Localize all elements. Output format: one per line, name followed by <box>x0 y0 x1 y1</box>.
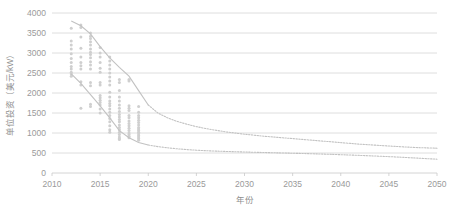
y-tick-label-4000: 4000 <box>27 8 46 18</box>
x-tick-label-2045: 2045 <box>379 179 398 189</box>
x-axis-line-group <box>52 173 437 176</box>
trend-curves-group <box>71 21 437 159</box>
scatter-point <box>89 44 92 47</box>
scatter-point <box>128 116 131 119</box>
x-tick-label-2030: 2030 <box>235 179 254 189</box>
scatter-point <box>79 68 82 71</box>
scatter-point <box>118 78 121 81</box>
scatter-point <box>70 52 73 55</box>
scatter-point <box>79 36 82 39</box>
scatter-point <box>89 56 92 59</box>
scatter-point <box>89 60 92 63</box>
scatter-point <box>70 57 73 60</box>
scatter-point <box>79 64 82 67</box>
scatter-point <box>99 71 102 74</box>
scatter-point <box>108 131 111 134</box>
scatter-point <box>108 124 111 127</box>
x-axis-title: 年份 <box>236 195 254 205</box>
scatter-point <box>89 64 92 67</box>
x-tick-label-2050: 2050 <box>428 179 447 189</box>
y-tick-label-2500: 2500 <box>27 68 46 78</box>
scatter-point <box>108 64 111 67</box>
scatter-point <box>99 112 102 115</box>
y-axis-title: 单位投资（美元/kW） <box>5 50 15 137</box>
x-tick-label-2020: 2020 <box>139 179 158 189</box>
scatter-point <box>108 76 111 79</box>
y-tick-label-3500: 3500 <box>27 28 46 38</box>
scatter-point <box>118 110 121 113</box>
scatter-point <box>89 48 92 51</box>
x-axis-tick-labels: 201020152020202520302035204020452050 <box>43 179 447 189</box>
scatter-point <box>89 68 92 71</box>
scatter-point <box>108 120 111 123</box>
scatter-point <box>79 56 82 59</box>
scatter-point <box>128 80 131 83</box>
scatter-point <box>70 68 73 71</box>
scatter-point <box>108 72 111 75</box>
scatter-point <box>108 91 111 94</box>
y-tick-label-500: 500 <box>32 148 46 158</box>
scatter-point <box>108 104 111 107</box>
scatter-point <box>108 96 111 99</box>
scatter-point <box>108 84 111 87</box>
scatter-point <box>70 44 73 47</box>
scatter-point <box>70 40 73 43</box>
scatter-point <box>70 61 73 64</box>
scatter-point <box>108 60 111 63</box>
x-tick-label-2025: 2025 <box>187 179 206 189</box>
scatter-point <box>118 104 121 107</box>
scatter-point <box>99 67 102 70</box>
scatter-point <box>108 80 111 83</box>
scatter-point <box>99 56 102 59</box>
y-tick-label-3000: 3000 <box>27 48 46 58</box>
x-tick-label-2010: 2010 <box>43 179 62 189</box>
scatter-point <box>89 53 92 56</box>
scatter-point <box>137 105 140 108</box>
x-tick-label-2015: 2015 <box>91 179 110 189</box>
scatter-point <box>70 48 73 51</box>
scatter-point <box>118 81 121 84</box>
x-tick-label-2040: 2040 <box>331 179 350 189</box>
scatter-point <box>99 84 102 87</box>
scatter-point <box>79 47 82 50</box>
chart-container: 05001000150020002500300035004000 2010201… <box>0 0 466 224</box>
scatter-point <box>79 107 82 110</box>
trend-line-dotted-1 <box>148 145 437 159</box>
scatter-point <box>118 100 121 103</box>
scatter-point <box>89 37 92 40</box>
scatter-point <box>118 120 121 123</box>
scatter-point <box>118 89 121 92</box>
scatter-point <box>89 105 92 108</box>
scatter-point <box>99 52 102 55</box>
trend-line-dotted-0 <box>148 105 437 148</box>
scatter-point <box>89 84 92 87</box>
scatter-point <box>128 109 131 112</box>
x-tick-label-2035: 2035 <box>283 179 302 189</box>
scatter-point <box>118 96 121 99</box>
y-tick-label-0: 0 <box>41 168 46 178</box>
y-tick-label-2000: 2000 <box>27 88 46 98</box>
scatter-point <box>79 61 82 64</box>
scatter-point <box>108 108 111 111</box>
scatter-point <box>70 27 73 30</box>
scatter-point <box>89 40 92 43</box>
y-tick-label-1500: 1500 <box>27 108 46 118</box>
scatter-point <box>137 139 140 142</box>
y-axis-tick-labels: 05001000150020002500300035004000 <box>27 8 46 178</box>
scatter-point <box>118 107 121 110</box>
unit-investment-scatter-chart: 05001000150020002500300035004000 2010201… <box>0 0 466 224</box>
scatter-point <box>118 138 121 141</box>
y-tick-label-1000: 1000 <box>27 128 46 138</box>
scatter-point <box>99 61 102 64</box>
scatter-point <box>89 81 92 84</box>
scatter-point <box>108 111 111 114</box>
scatter-point <box>108 68 111 71</box>
scatter-point <box>137 111 140 114</box>
